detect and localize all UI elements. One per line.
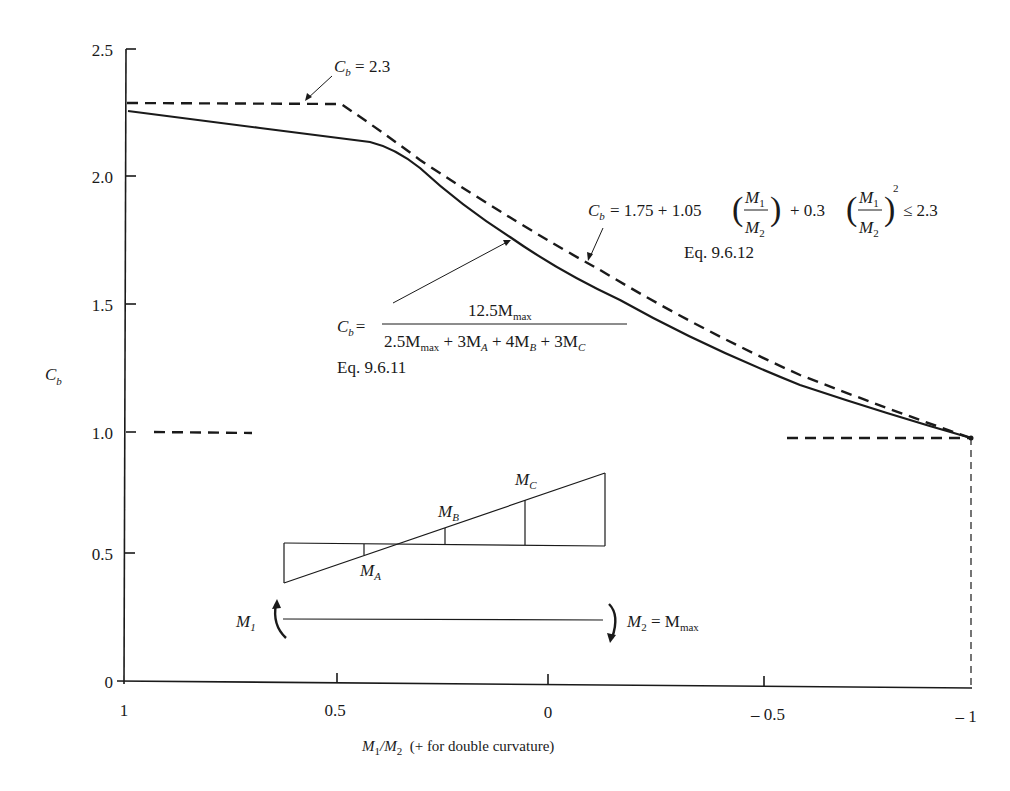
moment-diagram — [275, 473, 615, 638]
svg-text:MC: MC — [514, 470, 537, 491]
svg-text:2.5Mmax + 3MA + 4MB + 3MC: 2.5Mmax + 3MA + 4MB + 3MC — [384, 332, 586, 353]
x-tick-label: 0 — [544, 703, 553, 722]
eq-9-6-12-annotation: Cb = 1.75 + 1.05 ( M1 M2 ) + 0.3 ( M1 M2… — [588, 182, 938, 262]
x-axis-label: M1/M2 (+ for double curvature) — [361, 738, 554, 757]
svg-text:Cb: Cb — [588, 201, 605, 222]
y-axis-label: Cb — [45, 365, 62, 387]
svg-text:+ 0.3: + 0.3 — [790, 201, 825, 220]
svg-text:M1: M1 — [235, 612, 256, 633]
reference-line-left — [154, 432, 252, 433]
cap-annotation: Cb = 2.3 — [334, 57, 390, 78]
chart-canvas: 2.5 2.0 1.5 1.0 0.5 0 1 0.5 0 – 0.5 – 1 … — [0, 0, 1010, 791]
diagram-labels: MA MB MC M1 M2 = Mmax — [235, 470, 699, 633]
cap-arrow — [307, 76, 332, 99]
x-tick-label: – 0.5 — [750, 705, 785, 724]
y-tick-label: 2.0 — [92, 168, 113, 187]
svg-text:Eq. 9.6.12: Eq. 9.6.12 — [684, 243, 754, 262]
dashed-curve-eq-9-6-12 — [127, 103, 971, 438]
svg-text:): ) — [884, 190, 895, 228]
m1-arrow-head-icon — [272, 599, 281, 609]
solid-curve-eq-9-6-11 — [128, 111, 971, 438]
x-tick-labels: 1 0.5 0 – 0.5 – 1 — [120, 701, 977, 726]
svg-text:M2: M2 — [858, 218, 879, 239]
y-tick-labels: 2.5 2.0 1.5 1.0 0.5 0 — [92, 41, 113, 692]
y-tick-label: 2.5 — [92, 41, 113, 60]
arrow-head-icon — [305, 93, 312, 101]
eq11-arrow — [393, 241, 509, 303]
svg-text:Cb=: Cb= — [337, 317, 365, 338]
y-axis-line — [124, 49, 126, 684]
x-tick-label: 1 — [120, 701, 129, 720]
svg-text:= 1.75 + 1.05: = 1.75 + 1.05 — [610, 201, 701, 220]
x-tick-label: 0.5 — [324, 701, 345, 720]
y-tick-label: 1.0 — [92, 424, 113, 443]
svg-text:(: ( — [732, 190, 743, 228]
svg-text:Eq. 9.6.11: Eq. 9.6.11 — [337, 358, 406, 377]
beam-line — [283, 619, 603, 620]
svg-text:): ) — [770, 190, 781, 228]
y-tick-label: 1.5 — [92, 296, 113, 315]
svg-text:(: ( — [846, 190, 857, 228]
eq-9-6-11-annotation: Cb= 12.5Mmax 2.5Mmax + 3MA + 4MB + 3MC E… — [337, 301, 627, 377]
svg-text:M1: M1 — [744, 188, 765, 209]
svg-text:MA: MA — [359, 561, 381, 582]
x-axis-line — [117, 681, 972, 688]
x-tick-label: – 1 — [954, 707, 976, 726]
m1-curved-arrow-icon — [275, 604, 286, 638]
eq12-arrow — [590, 228, 603, 257]
svg-text:MB: MB — [437, 502, 459, 523]
svg-text:12.5Mmax: 12.5Mmax — [468, 301, 532, 322]
y-tick-label: 0.5 — [92, 545, 113, 564]
svg-text:2: 2 — [893, 182, 899, 194]
endpoint-marker — [969, 436, 974, 441]
svg-text:M2: M2 — [744, 218, 765, 239]
m2-curved-arrow-icon — [609, 604, 615, 638]
y-tick-label: 0 — [105, 673, 114, 692]
axes — [117, 49, 972, 688]
svg-text:≤ 2.3: ≤ 2.3 — [903, 201, 938, 220]
svg-text:M2 = Mmax: M2 = Mmax — [626, 612, 699, 633]
svg-text:M1: M1 — [858, 188, 879, 209]
m2-arrow-head-icon — [607, 633, 616, 643]
